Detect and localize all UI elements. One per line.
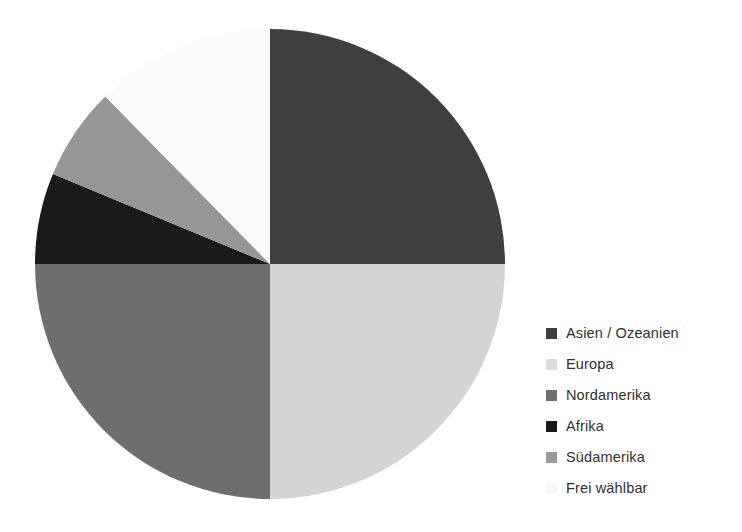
legend-item-label: Asien / Ozeanien — [566, 326, 679, 341]
pie-slice-group — [35, 29, 505, 499]
legend-item-label: Nordamerika — [566, 388, 651, 403]
legend-item[interactable]: Europa — [546, 349, 736, 380]
pie-svg — [34, 28, 506, 500]
legend-item[interactable]: Nordamerika — [546, 380, 736, 411]
legend-item-label: Afrika — [566, 419, 604, 434]
legend-item[interactable]: Frei wählbar — [546, 473, 736, 504]
pie-slice[interactable] — [270, 29, 505, 264]
pie-chart-plot-area — [34, 28, 506, 500]
pie-slice[interactable] — [35, 264, 270, 499]
legend-swatch-icon — [546, 328, 557, 339]
pie-chart-figure: Asien / OzeanienEuropaNordamerikaAfrikaS… — [0, 0, 742, 532]
legend-swatch-icon — [546, 359, 557, 370]
pie-slice[interactable] — [270, 264, 505, 499]
legend-item[interactable]: Afrika — [546, 411, 736, 442]
chart-legend: Asien / OzeanienEuropaNordamerikaAfrikaS… — [546, 318, 736, 504]
legend-item[interactable]: Südamerika — [546, 442, 736, 473]
legend-swatch-icon — [546, 452, 557, 463]
legend-swatch-icon — [546, 390, 557, 401]
legend-item-label: Frei wählbar — [566, 481, 648, 496]
legend-swatch-icon — [546, 483, 557, 494]
legend-item[interactable]: Asien / Ozeanien — [546, 318, 736, 349]
legend-item-label: Europa — [566, 357, 614, 372]
legend-item-label: Südamerika — [566, 450, 645, 465]
legend-swatch-icon — [546, 421, 557, 432]
